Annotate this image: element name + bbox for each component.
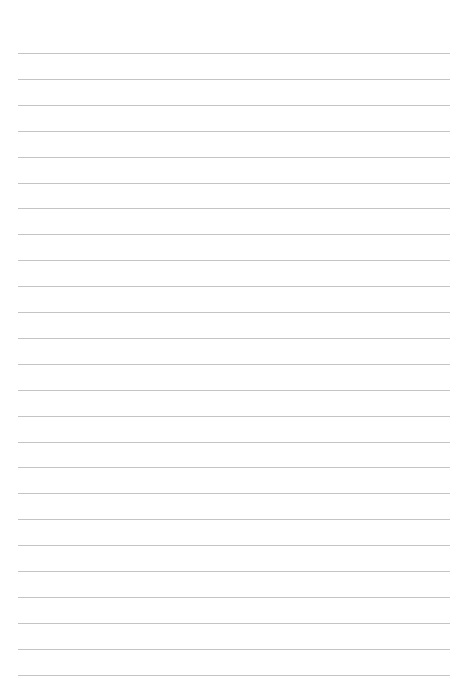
ruled-line <box>18 623 450 624</box>
ruled-line <box>18 53 450 54</box>
ruled-line <box>18 675 450 676</box>
ruled-line <box>18 338 450 339</box>
ruled-line <box>18 390 450 391</box>
ruled-line <box>18 208 450 209</box>
ruled-line <box>18 597 450 598</box>
ruled-line <box>18 442 450 443</box>
ruled-line <box>18 183 450 184</box>
ruled-line <box>18 157 450 158</box>
ruled-line <box>18 519 450 520</box>
ruled-line <box>18 416 450 417</box>
ruled-line <box>18 649 450 650</box>
ruled-line <box>18 364 450 365</box>
ruled-line <box>18 131 450 132</box>
ruled-line <box>18 467 450 468</box>
ruled-line <box>18 312 450 313</box>
ruled-line <box>18 571 450 572</box>
ruled-line <box>18 260 450 261</box>
ruled-line <box>18 79 450 80</box>
ruled-line <box>18 234 450 235</box>
ruled-line <box>18 545 450 546</box>
ruled-line <box>18 493 450 494</box>
ruled-line <box>18 105 450 106</box>
lined-paper-page <box>0 0 470 699</box>
ruled-line <box>18 286 450 287</box>
